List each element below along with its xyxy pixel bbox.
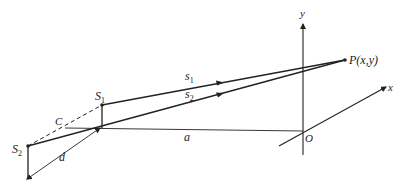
label-y-axis: y <box>299 7 305 19</box>
point-p <box>343 58 347 62</box>
label-d: d <box>59 150 66 164</box>
label-a: a <box>184 130 190 144</box>
slit-separation-dashed <box>28 105 102 146</box>
x-axis <box>279 87 386 146</box>
point-s2 <box>26 144 30 148</box>
double-slit-diagram: S1 S2 C d a s1 s2 P(x,y) O x y <box>0 0 404 187</box>
label-s1: S1 <box>95 89 105 105</box>
label-origin: O <box>305 132 313 144</box>
label-p: P(x,y) <box>348 53 378 67</box>
label-c: C <box>55 115 63 127</box>
label-s2: S2 <box>12 142 22 158</box>
label-x-axis: x <box>387 81 393 93</box>
diagram-canvas: S1 S2 C d a s1 s2 P(x,y) O x y <box>0 0 404 187</box>
label-ray-s2: s2 <box>185 87 194 103</box>
label-ray-s1: s1 <box>185 69 194 85</box>
